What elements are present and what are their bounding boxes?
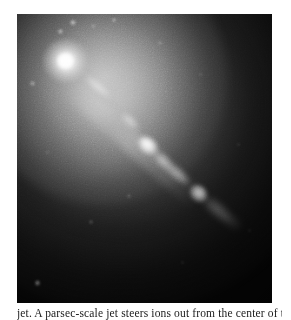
point-source-4 [30, 81, 35, 86]
point-source-1 [112, 18, 116, 22]
point-source-2 [58, 29, 63, 34]
point-source-12 [248, 229, 251, 232]
point-source-0 [70, 20, 75, 25]
point-source-3 [92, 24, 96, 28]
point-source-8 [89, 220, 93, 224]
galactic-nucleus-core [57, 53, 74, 69]
astronomical-image-m87-jet [17, 14, 272, 303]
point-source-7 [127, 194, 131, 198]
figure-caption: jet. A parsec-scale jet steers ions out … [17, 307, 282, 320]
point-source-9 [35, 280, 41, 286]
point-source-5 [158, 41, 162, 45]
